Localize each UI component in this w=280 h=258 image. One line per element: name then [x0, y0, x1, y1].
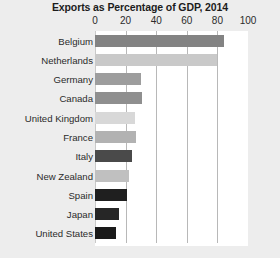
category-label: Germany [54, 74, 93, 85]
bar [95, 189, 127, 201]
category-label: Canada [59, 93, 93, 104]
bar [95, 131, 136, 143]
category-label: Netherlands [41, 54, 93, 65]
bar [95, 35, 224, 47]
bar [95, 92, 142, 104]
bar-row: New Zealand [0, 166, 280, 185]
bar [95, 170, 129, 182]
category-label: Japan [67, 209, 93, 220]
bar [95, 54, 217, 66]
bar [95, 227, 116, 239]
x-tick-label: 0 [92, 15, 98, 26]
bar-row: Italy [0, 147, 280, 166]
bar-row: Germany [0, 70, 280, 89]
chart-title: Exports as Percentage of GDP, 2014 [0, 1, 280, 13]
bar-row: Canada [0, 89, 280, 108]
category-label: Italy [75, 151, 93, 162]
bar-rows: BelgiumNetherlandsGermanyCanadaUnited Ki… [0, 31, 280, 243]
category-label: France [63, 131, 93, 142]
bar-row: Netherlands [0, 50, 280, 69]
category-label: New Zealand [36, 170, 93, 181]
x-tick-label: 60 [181, 15, 192, 26]
bar-row: United Kingdom [0, 108, 280, 127]
bar [95, 73, 141, 85]
bar-row: Belgium [0, 31, 280, 50]
bar [95, 150, 132, 162]
x-tick-label: 80 [212, 15, 223, 26]
bar [95, 112, 135, 124]
x-axis-top: 020406080100 [0, 15, 280, 29]
bar-row: France [0, 127, 280, 146]
category-label: Belgium [58, 35, 93, 46]
x-tick-label: 20 [120, 15, 131, 26]
bar-row: Japan [0, 204, 280, 223]
bar [95, 208, 119, 220]
category-label: United Kingdom [25, 112, 93, 123]
category-label: United States [35, 228, 93, 239]
category-label: Spain [68, 189, 93, 200]
bar-row: Spain [0, 185, 280, 204]
x-tick-label: 40 [151, 15, 162, 26]
bar-row: United States [0, 224, 280, 243]
plot-bottom-padding [95, 243, 248, 246]
x-tick-label: 100 [240, 15, 257, 26]
bar-chart: Exports as Percentage of GDP, 2014 02040… [0, 0, 280, 258]
